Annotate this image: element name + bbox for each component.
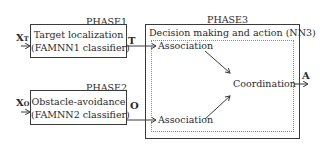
association-top: Association bbox=[158, 41, 213, 51]
o-signal-label: O bbox=[130, 101, 139, 111]
phase1-line1: Target localization bbox=[31, 29, 126, 41]
phase3-header: Decision making and action (NN3) bbox=[149, 28, 316, 38]
input-xt-label: XT bbox=[16, 33, 29, 44]
phase1-box: Target localization (FAMNN1 classifier) bbox=[30, 24, 127, 58]
phase1-line2: (FAMNN1 classifier) bbox=[31, 42, 126, 54]
input-xt-main: X bbox=[16, 32, 24, 43]
coordination-node: Coordination bbox=[233, 79, 296, 89]
phase2-line2: (FAMNN2 classifier) bbox=[31, 109, 126, 121]
association-bottom: Association bbox=[158, 115, 213, 125]
t-signal-label: T bbox=[128, 36, 135, 46]
phase2-box: Obstacle-avoidance (FAMNN2 classifier) bbox=[30, 90, 127, 125]
input-xo-main: X bbox=[16, 97, 24, 108]
phase2-line1: Obstacle-avoidance bbox=[31, 96, 126, 108]
a-output-label: A bbox=[302, 71, 310, 81]
input-xt-sub: T bbox=[24, 35, 29, 43]
input-xo-sub: O bbox=[24, 100, 30, 108]
input-xo-label: XO bbox=[16, 98, 29, 109]
